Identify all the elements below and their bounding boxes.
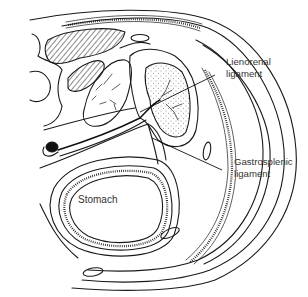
- stomach: [40, 157, 179, 258]
- lienorenal-label-line2: ligament: [226, 68, 263, 79]
- gastrosplenic-label-line1: Gastrosplenic: [234, 156, 293, 167]
- spleen-ligaments-diagram: Lienorenal ligament Gastrosplenic ligame…: [0, 0, 308, 297]
- aorta: [46, 142, 58, 152]
- gastrosplenic-label-line2: ligament: [234, 168, 271, 179]
- stomach-label: Stomach: [78, 194, 117, 205]
- lienorenal-label-line1: Lienorenal: [226, 56, 271, 67]
- spleen: [130, 49, 198, 146]
- posterior-muscle: [45, 29, 125, 64]
